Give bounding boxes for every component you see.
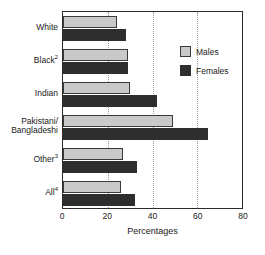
bar-males	[63, 115, 173, 127]
legend-label: Males	[196, 47, 219, 57]
bar-males	[63, 82, 130, 94]
x-axis-title: Percentages	[62, 226, 243, 236]
bar-males	[63, 49, 128, 61]
legend-swatch-females	[180, 65, 191, 76]
category-label: All4	[0, 188, 58, 198]
legend-entry: Males	[180, 44, 254, 59]
x-axis-ticks: 020406080	[62, 209, 243, 223]
x-tick-label: 0	[60, 211, 65, 221]
legend-entry: Females	[180, 63, 254, 78]
x-tick-label: 80	[238, 211, 247, 221]
bar-group	[63, 144, 242, 177]
bar-females	[63, 95, 157, 107]
category-label: Pakistani/Bangladeshi	[0, 117, 58, 136]
bar-females	[63, 62, 128, 74]
category-label: White	[0, 23, 58, 33]
x-tick-label: 20	[103, 211, 112, 221]
category-label: Other3	[0, 155, 58, 165]
bar-group	[63, 111, 242, 144]
bar-females	[63, 128, 208, 140]
bar-males	[63, 16, 117, 28]
bar-females	[63, 29, 126, 41]
bar-group	[63, 12, 242, 45]
bar-females	[63, 161, 137, 173]
legend-swatch-males	[180, 46, 191, 57]
x-tick-label: 60	[193, 211, 202, 221]
bar-females	[63, 194, 135, 206]
bar-group	[63, 177, 242, 210]
category-label: Black2	[0, 56, 58, 66]
legend: MalesFemales	[180, 44, 254, 82]
bar-chart: WhiteBlack2IndianPakistani/BangladeshiOt…	[0, 0, 265, 255]
category-label: Indian	[0, 89, 58, 99]
plot-area	[62, 11, 243, 209]
bar-males	[63, 181, 121, 193]
bar-groups	[63, 12, 242, 208]
x-tick-label: 40	[148, 211, 157, 221]
bar-group	[63, 78, 242, 111]
legend-label: Females	[196, 66, 229, 76]
bar-males	[63, 148, 123, 160]
category-axis-labels: WhiteBlack2IndianPakistani/BangladeshiOt…	[0, 11, 58, 209]
